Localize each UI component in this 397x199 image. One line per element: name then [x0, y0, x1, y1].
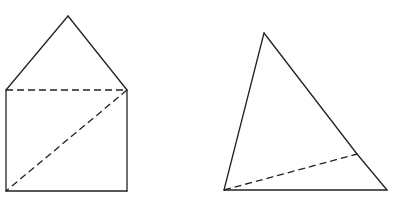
dashed-edge-bottom-left-middle [224, 154, 357, 190]
house-net-figure [6, 16, 127, 191]
solid-edge-apex-middle [264, 33, 357, 154]
dashed-edge-top-right-bottom-left [6, 90, 127, 191]
diagram-canvas [0, 0, 397, 199]
solid-edge-bottom-left-apex [224, 33, 264, 190]
solid-edge-middle-bottom-right [357, 154, 387, 190]
folded-tetrahedron-figure [224, 33, 387, 190]
solid-edge-apex-top-right [68, 16, 127, 90]
solid-edge-top-left-apex [6, 16, 68, 90]
